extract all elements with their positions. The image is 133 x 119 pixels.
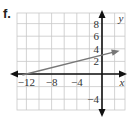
y-axis-arrow-up-icon	[99, 10, 106, 18]
y-axis-label: y	[118, 12, 124, 24]
y-tick-label: 2	[94, 55, 100, 67]
y-tick-label: 6	[94, 30, 100, 42]
x-tick-label: −12	[18, 76, 35, 88]
x-tick-label: −8	[46, 76, 58, 88]
y-tick-label: −4	[87, 93, 99, 105]
y-tick-label: 4	[94, 43, 100, 55]
x-axis-label: x	[119, 76, 125, 88]
series-arrow-icon	[111, 50, 120, 56]
tick-labels: −12−8−48642−4xy	[18, 12, 125, 105]
y-tick-label: 8	[94, 18, 100, 30]
data-line	[22, 50, 119, 75]
x-tick-label: −4	[71, 76, 83, 88]
coordinate-plane-chart: −12−8−48642−4xy	[0, 0, 133, 119]
grid-lines	[17, 13, 125, 110]
y-axis-arrow-down-icon	[99, 109, 106, 117]
